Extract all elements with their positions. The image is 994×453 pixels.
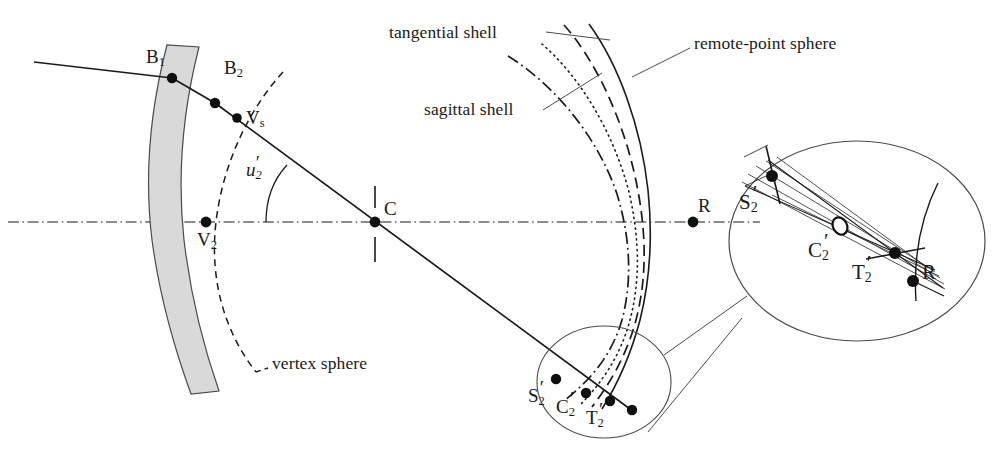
label-b1-letter: B <box>146 46 159 67</box>
label-u2-letter: u <box>246 159 256 180</box>
optical-diagram-figure: tangential shell sagittal shell remote-p… <box>0 0 994 453</box>
label-point-vs: Vs <box>246 108 265 129</box>
label-v2-sub: 2 <box>211 238 217 252</box>
label-point-t2-prime-inset: T2′ <box>852 262 876 285</box>
label-s2-prime-mark: ′ <box>540 377 544 398</box>
label-point-t2-prime: T2′ <box>586 408 608 429</box>
point-t2-prime-inset <box>889 247 901 259</box>
label-t2-prime-mark: ′ <box>599 399 603 420</box>
magnified-inset-circle <box>729 141 985 341</box>
label-point-c2-prime: C2′ <box>556 397 579 418</box>
point-r <box>688 217 699 228</box>
label-point-r-inset: R <box>922 262 936 283</box>
label-v2-letter: V <box>197 229 211 250</box>
label-c2-letter: C <box>556 396 569 417</box>
label-point-v2: V2 <box>197 230 217 251</box>
label-vs-sub: s <box>260 116 265 130</box>
label-c2-inset-letter: C <box>808 238 822 262</box>
label-c2-prime-mark: ′ <box>570 388 574 409</box>
point-b1 <box>167 73 177 83</box>
label-t2-inset-letter: T <box>852 260 865 284</box>
label-s2-inset-prime-mark: ′ <box>753 181 758 205</box>
point-c <box>370 217 381 228</box>
point-vs <box>232 113 242 123</box>
label-b2-sub: 2 <box>237 66 243 80</box>
petzval-surface-curve <box>542 44 637 404</box>
label-point-r: R <box>698 196 711 215</box>
label-t2-letter: T <box>586 407 598 428</box>
label-t2-inset-prime-mark: ′ <box>867 251 872 275</box>
sagittal-shell-curve <box>508 56 629 400</box>
label-point-b2: B2 <box>224 58 243 79</box>
leader-sagittal-shell <box>543 73 602 110</box>
label-b1-sub: 1 <box>159 55 165 69</box>
label-point-b1: B1 <box>146 47 165 68</box>
point-s2-prime <box>551 374 561 384</box>
label-tangential-shell: tangential shell <box>389 24 497 42</box>
label-point-c2-prime-inset: C2′ <box>808 240 834 263</box>
label-point-c: C <box>384 199 397 218</box>
label-vs-letter: V <box>246 107 260 128</box>
inset-connector-upper <box>664 296 747 355</box>
leader-tangential-shell <box>546 32 610 40</box>
label-remote-point-sphere: remote-point sphere <box>694 35 836 53</box>
label-point-s2-prime: S2′ <box>528 386 549 407</box>
angle-arc-u2prime <box>266 165 287 222</box>
label-u2-prime-mark: ′ <box>256 152 260 173</box>
leader-vertex-sphere <box>256 368 268 372</box>
point-s2-prime-inset <box>766 170 778 182</box>
label-c2-inset-prime-mark: ′ <box>824 229 829 253</box>
tangential-shell-curve <box>564 25 644 407</box>
point-c2-prime <box>581 388 591 398</box>
point-b2 <box>210 98 220 108</box>
point-v2 <box>201 217 212 228</box>
inset-connector-lower <box>648 318 742 432</box>
label-sagittal-shell: sagittal shell <box>424 101 513 119</box>
leader-remote-point-sphere <box>632 48 690 77</box>
point-t2-prime <box>605 396 615 406</box>
label-b2-letter: B <box>224 57 237 78</box>
label-point-s2-prime-inset: S2′ <box>739 192 762 215</box>
label-vertex-sphere: vertex sphere <box>272 355 367 373</box>
label-s2-letter: S <box>528 385 539 406</box>
label-angle-u2-prime: u2′ <box>246 160 266 182</box>
label-s2-inset-letter: S <box>739 190 751 214</box>
point-r-small <box>627 405 637 415</box>
